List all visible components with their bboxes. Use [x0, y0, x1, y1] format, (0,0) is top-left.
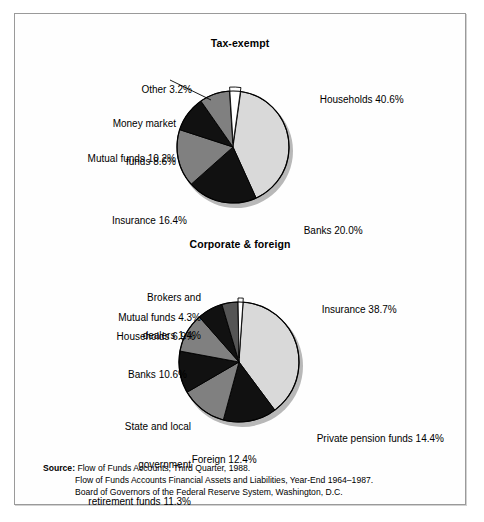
source-label: Source: [43, 463, 75, 473]
label-banks-corp: Banks 10.6% [77, 356, 187, 394]
label-private-pension-text: Private pension funds 14.4% [317, 433, 444, 444]
source-line-1-text: Flow of Funds Accounts, Third Quarter, 1… [77, 463, 250, 473]
source-line-1: Source: Flow of Funds Accounts, Third Qu… [43, 462, 373, 474]
label-private-pension: Private pension funds 14.4% [300, 420, 444, 458]
label-households-corp-text: Households 6.9% [117, 331, 195, 342]
label-state-local: State and local government retirement fu… [43, 396, 191, 522]
label-banks-corp-text: Banks 10.6% [128, 369, 187, 380]
label-households-corp: Households 6.9% [67, 318, 195, 356]
label-insurance-corp: Insurance 38.7% [305, 291, 397, 329]
source-line-3: Board of Governors of the Federal Reserv… [43, 486, 373, 498]
corporate-foreign-panel: Corporate & foreign Brokers and dealers … [15, 14, 465, 504]
label-insurance-corp-text: Insurance 38.7% [322, 304, 397, 315]
label-state-local-line1: State and local [43, 421, 191, 434]
chart-title-corporate-foreign: Corporate & foreign [15, 238, 465, 250]
figure-panel: Tax-exempt Other 3.2% Money market funds… [14, 13, 466, 505]
source-note: Source: Flow of Funds Accounts, Third Qu… [43, 462, 373, 499]
source-line-2: Flow of Funds Accounts Financial Assets … [43, 474, 373, 486]
